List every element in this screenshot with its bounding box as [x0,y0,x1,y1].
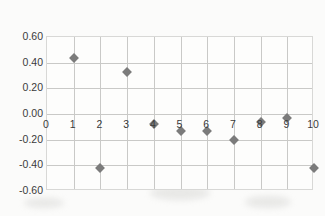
data-point [256,117,266,127]
plot-area [46,36,313,190]
data-point [176,126,186,136]
data-points-layer [47,37,312,189]
data-point [282,113,292,123]
y-tick-label: -0.20 [19,134,43,145]
scatter-chart: 0.600.400.200.00-0.20-0.40-0.60 01234567… [0,0,325,216]
y-tick-label: -0.60 [19,185,43,196]
y-tick-label: 0.20 [23,82,43,93]
data-point [229,135,239,145]
scan-artifact [245,196,291,208]
data-point [149,119,159,129]
y-axis-tick-labels: 0.600.400.200.00-0.20-0.40-0.60 [0,0,43,216]
y-tick-label: 0.40 [23,57,43,68]
y-tick-label: -0.40 [19,159,43,170]
data-point [122,67,132,77]
data-point [69,53,79,63]
y-tick-label: 0.00 [23,108,43,119]
data-point [309,163,319,173]
data-point [95,163,105,173]
y-tick-label: 0.60 [23,31,43,42]
data-point [202,126,212,136]
